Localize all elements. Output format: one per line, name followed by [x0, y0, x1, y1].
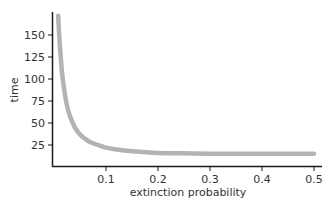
- data-line: [58, 16, 314, 154]
- y-axis-label: time: [8, 77, 21, 102]
- plot-area: [58, 16, 314, 154]
- x-tick-label: 0.4: [253, 173, 271, 186]
- y-tick-label: 75: [31, 95, 45, 108]
- y-tick-label: 150: [24, 29, 45, 42]
- x-axis-label: extinction probability: [130, 186, 247, 199]
- x-tick-label: 0.1: [97, 173, 115, 186]
- x-tick-label: 0.5: [305, 173, 323, 186]
- x-axis: 0.10.20.30.40.5: [52, 167, 323, 187]
- line-chart: 255075100125150 0.10.20.30.40.5 extincti…: [0, 0, 330, 207]
- y-tick-label: 100: [24, 73, 45, 86]
- y-axis: 255075100125150: [24, 12, 53, 167]
- y-tick-label: 50: [31, 117, 45, 130]
- y-tick-label: 125: [24, 51, 45, 64]
- x-tick-label: 0.3: [201, 173, 219, 186]
- y-tick-label: 25: [31, 139, 45, 152]
- x-tick-label: 0.2: [149, 173, 167, 186]
